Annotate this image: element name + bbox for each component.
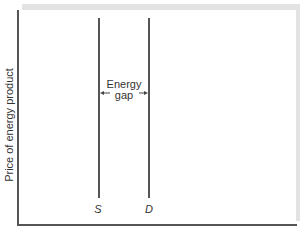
gap-arrows: [0, 0, 303, 231]
energy-gap-diagram: Price of energy product S D Energy gap: [0, 0, 303, 231]
supply-curve: [98, 18, 100, 198]
supply-curve-label: S: [94, 203, 101, 215]
y-axis: [17, 10, 19, 225]
frame-shadow-top: [22, 4, 300, 10]
x-axis: [17, 224, 297, 226]
demand-curve-label: D: [145, 203, 153, 215]
demand-curve: [148, 18, 150, 198]
energy-gap-line2: gap: [107, 90, 142, 101]
frame-shadow-right: [296, 4, 300, 221]
energy-gap-annotation: Energy gap: [107, 79, 142, 101]
y-axis-label: Price of energy product: [3, 68, 15, 182]
